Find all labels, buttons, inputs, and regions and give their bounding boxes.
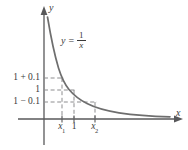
function-label-lhs: y <box>61 36 65 46</box>
y-axis-arrowhead <box>41 6 48 15</box>
y-tick-label-upper: 1 + 0.1 <box>0 73 40 83</box>
function-label: y = 1 x <box>61 31 86 51</box>
figure-canvas: y x 1 + 0.1 1 1 − 0.1 x1 1 x2 y = 1 x <box>0 0 188 150</box>
y-tick-label-lower: 1 − 0.1 <box>0 97 40 107</box>
y-axis-label: y <box>49 3 53 13</box>
x-tick-label-one: 1 <box>64 122 84 132</box>
y-tick-label-mid: 1 <box>0 85 40 95</box>
x-tick-label-x2: x2 <box>85 122 105 133</box>
function-label-denominator: x <box>77 41 85 50</box>
x-axis-label: x <box>176 108 180 118</box>
function-label-operator: = <box>68 36 74 46</box>
x-tick-label-x2-subscript: 2 <box>95 127 98 134</box>
function-label-numerator: 1 <box>77 31 86 40</box>
function-label-fraction: 1 x <box>77 31 86 51</box>
